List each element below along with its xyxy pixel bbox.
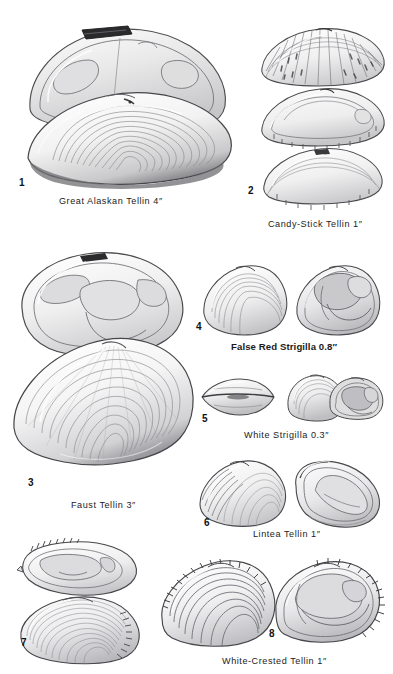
- figure-6-caption: Lintea Tellin 1″: [253, 529, 320, 539]
- fig4-interior: [297, 266, 380, 335]
- figure-8-number: 8: [269, 629, 275, 639]
- fig2-view-rayed-exterior: [262, 29, 384, 86]
- figure-7-shell: [17, 536, 157, 664]
- fig7-interior-valve: [17, 538, 137, 595]
- figure-1-great-alaskan-tellin: [20, 14, 235, 189]
- figure-7-number: 7: [21, 638, 27, 648]
- figure-1-number: 1: [19, 178, 25, 188]
- fig5-dorsal-view: [202, 379, 274, 415]
- figure-2-candy-stick-tellin: [258, 22, 388, 202]
- figure-3-faust-tellin: [10, 248, 200, 490]
- figure-8-caption: White-Crested Tellin 1″: [222, 656, 327, 666]
- figure-6-number: 6: [204, 518, 210, 528]
- figure-5-white-strigilla: [200, 375, 384, 421]
- figure-4-caption: False Red Strigilla 0.8″: [231, 341, 337, 352]
- figure-4-false-red-strigilla: [200, 262, 384, 338]
- fig6-exterior: [200, 461, 286, 527]
- shell-plate-page: 1 Great Alaskan Tellin 4″: [0, 0, 393, 674]
- fig3-exterior-valve: [14, 339, 193, 466]
- fig8-exterior: [162, 559, 275, 647]
- figure-1-caption: Great Alaskan Tellin 4″: [59, 196, 163, 206]
- fig7-exterior-valve: [21, 597, 139, 664]
- fig2-view-interior: [262, 89, 384, 150]
- fig2-view-plain-exterior: [264, 149, 383, 210]
- figure-2-number: 2: [248, 186, 254, 196]
- fig5-interior-view: [330, 378, 383, 420]
- figure-3-number: 3: [28, 478, 34, 488]
- fig4-exterior: [204, 266, 287, 335]
- figure-6-lintea-tellin: [198, 458, 384, 530]
- fig6-interior: [296, 461, 380, 527]
- figure-4-number: 4: [196, 322, 202, 332]
- fig8-interior: [276, 558, 385, 642]
- figure-2-caption: Candy-Stick Tellin 1″: [268, 219, 362, 229]
- figure-5-caption: White Strigilla 0.3″: [244, 430, 329, 440]
- figure-5-number: 5: [202, 414, 208, 424]
- figure-3-caption: Faust Tellin 3″: [71, 500, 136, 510]
